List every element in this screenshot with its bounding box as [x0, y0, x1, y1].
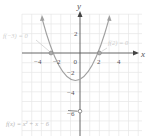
curve-arrow-right-icon: [107, 15, 112, 21]
tick-x-4: 4: [117, 58, 121, 66]
chart: y x f(−3) = 0 f(2) = 0 −4 −2 0 2 4 2 −2 …: [0, 0, 155, 140]
left-root-pointer: [36, 40, 49, 51]
tick-y-neg4: −4: [67, 89, 75, 97]
root-point-right: [97, 51, 101, 55]
tick-x-neg4: −4: [34, 58, 42, 66]
function-label: f(x) = x² + x − 6: [6, 120, 50, 128]
left-root-label: f(−3) = 0: [3, 32, 28, 40]
tick-y-neg2: −2: [67, 69, 75, 77]
tick-x-2: 2: [97, 58, 101, 66]
tick-x-neg2: −2: [53, 58, 61, 66]
tick-y-2: 2: [74, 30, 78, 38]
curve-arrow-left-icon: [40, 15, 45, 21]
parabola-curve: [42, 19, 109, 81]
grid: [22, 14, 142, 136]
tick-zero: 0: [74, 58, 78, 66]
y-intercept-point: [78, 109, 82, 113]
x-axis-label: x: [140, 49, 145, 59]
right-root-label: f(2) = 0: [108, 39, 129, 47]
right-root-pointer: [102, 48, 108, 52]
tick-y-neg6: −6: [67, 110, 75, 118]
y-axis-label: y: [76, 1, 81, 11]
root-point-left: [49, 51, 53, 55]
